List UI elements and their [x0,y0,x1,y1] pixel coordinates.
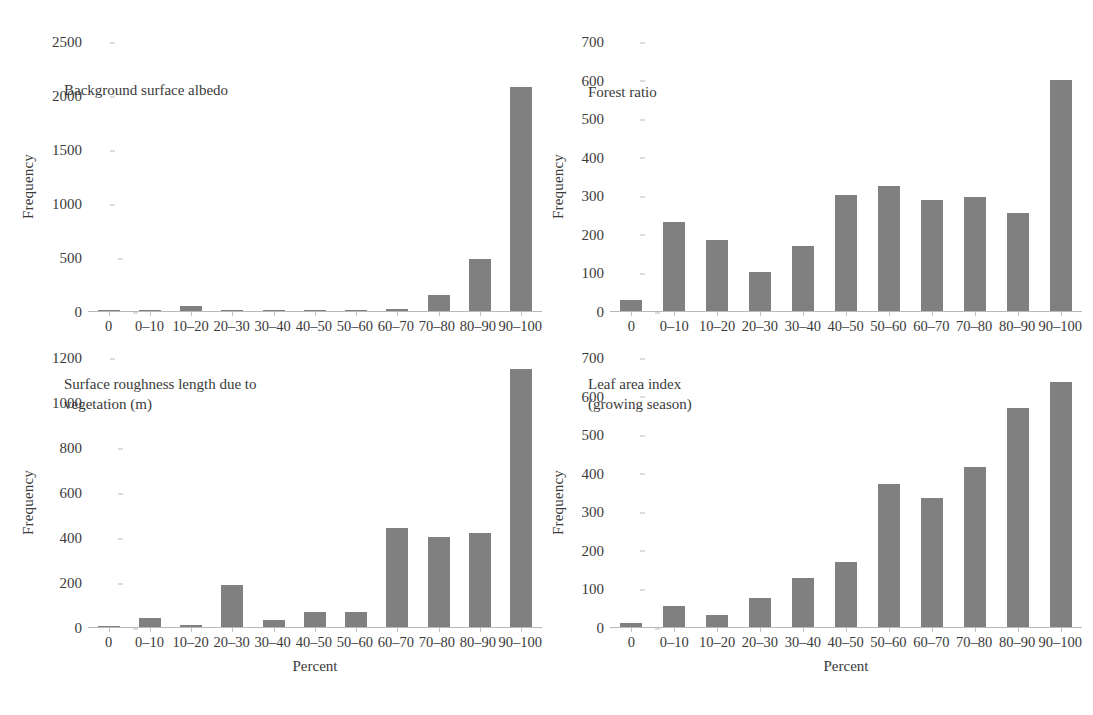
y-tick-mark [133,312,138,313]
plot-area: 0100200300400500600700 [610,42,1082,312]
y-tick-mark [133,628,138,629]
bar [878,484,900,627]
x-tick-label: 0–10 [653,318,696,335]
bar [835,195,857,311]
bar [749,598,771,627]
x-tick-label: 30–40 [781,634,824,651]
bar [921,498,943,627]
x-tick-label: 40–50 [293,318,334,335]
bar [386,528,408,627]
x-tick-label: 30–40 [252,318,293,335]
chart-panel-surface-roughness-length: Frequency 020040060080010001200 00–1010–… [18,350,548,700]
y-tick-label: 0 [597,621,605,636]
bar-cell [336,41,377,311]
x-tick-label: 50–60 [334,318,375,335]
bar-cell [782,41,825,311]
bar-cell [739,357,782,627]
bar-cell [1039,41,1082,311]
bar-cell [953,357,996,627]
x-tick-label: 40–50 [824,318,867,335]
x-tick-label: 90–100 [498,634,542,651]
figure-canvas: Frequency 05001000150020002500 00–1010–2… [0,0,1093,715]
bar [263,620,285,627]
x-tick-label: 70–80 [416,318,457,335]
bar [428,537,450,627]
y-tick-mark [655,312,660,313]
y-tick-label: 400 [582,466,605,481]
panel-title: Background surface albedo [64,80,228,100]
bar-cell [377,41,418,311]
bar-cell [418,41,459,311]
y-tick-label: 300 [582,505,605,520]
bar [835,562,857,627]
panel-title: Surface roughness length due to vegetati… [64,374,256,415]
x-axis-line [88,311,542,312]
x-tick-label: 0 [610,634,653,651]
y-tick-label: 0 [75,621,83,636]
bar [620,300,642,311]
y-tick-label: 700 [582,35,605,50]
bar [792,246,814,311]
chart-panel-forest-ratio: Frequency 0100200300400500600700 00–1010… [548,34,1088,364]
x-tick-label: 40–50 [293,634,334,651]
x-axis-line [610,311,1082,312]
bar [1050,80,1072,311]
x-axis-title: Percent [88,658,542,675]
bar-cell [996,357,1039,627]
chart-panel-leaf-area-index: Frequency 0100200300400500600700 00–1010… [548,350,1088,700]
bar [510,87,532,311]
x-axis-line [610,627,1082,628]
y-tick-label: 1000 [52,197,82,212]
y-tick-label: 200 [60,576,83,591]
bar [345,612,367,627]
x-tick-label: 90–100 [1038,318,1082,335]
x-tick-label: 0 [88,634,129,651]
bar [749,272,771,311]
x-tick-label: 10–20 [696,634,739,651]
x-tick-label: 10–20 [170,318,211,335]
bar-cell [825,357,868,627]
bar-cell [1039,357,1082,627]
bar-cell [336,357,377,627]
bar [139,618,161,627]
y-tick-label: 200 [582,227,605,242]
bar [663,222,685,311]
x-tick-label: 10–20 [696,318,739,335]
bar-cell [501,41,542,311]
bar-cell [953,41,996,311]
bar-cell [739,41,782,311]
x-tick-label: 60–70 [375,318,416,335]
y-tick-label: 500 [582,428,605,443]
y-tick-label: 400 [582,150,605,165]
x-tick-label: 70–80 [416,634,457,651]
x-tick-label: 80–90 [996,318,1039,335]
y-tick-label: 500 [582,112,605,127]
bar [1050,382,1072,627]
y-tick-label: 300 [582,189,605,204]
y-tick-mark [655,628,660,629]
x-tick-label: 30–40 [252,634,293,651]
panel-title: Forest ratio [588,82,657,102]
panel-title: Leaf area index (growing season) [588,374,692,415]
x-tick-label: 70–80 [953,318,996,335]
x-tick-labels: 00–1010–2020–3030–4040–5050–6060–7070–80… [88,634,542,651]
bar [428,295,450,311]
x-axis-line [88,627,542,628]
x-tick-label: 60–70 [910,634,953,651]
bar-cell [294,357,335,627]
x-tick-label: 0–10 [129,634,170,651]
bar [663,606,685,627]
x-axis-title: Percent [610,658,1082,675]
bar-cell [996,41,1039,311]
x-tick-label: 50–60 [867,318,910,335]
bar-cell [867,41,910,311]
x-tick-label: 20–30 [739,318,782,335]
x-tick-label: 0–10 [653,634,696,651]
bar [706,615,728,627]
x-tick-label: 0 [610,318,653,335]
y-tick-label: 800 [60,441,83,456]
y-tick-label: 500 [60,251,83,266]
bar [1007,213,1029,311]
x-tick-label: 0–10 [129,318,170,335]
bar-cell [501,357,542,627]
